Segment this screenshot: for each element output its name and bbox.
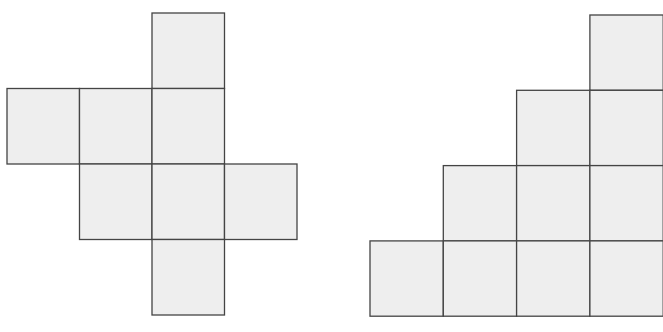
grid-cell xyxy=(152,13,225,89)
grid-cell xyxy=(590,90,663,165)
grid-cell xyxy=(370,241,443,316)
grid-cell xyxy=(590,15,663,90)
grid-cell xyxy=(7,89,80,165)
grid-cell xyxy=(80,89,153,165)
grid-cell xyxy=(590,166,663,241)
grid-cell xyxy=(152,89,225,165)
staircase-figure xyxy=(370,15,663,316)
grid-figures-svg xyxy=(0,0,663,332)
grid-cell xyxy=(152,240,225,316)
grid-cell xyxy=(443,241,516,316)
grid-cell xyxy=(590,241,663,316)
grid-cell xyxy=(225,164,298,240)
diagram-canvas xyxy=(0,0,663,332)
grid-cell xyxy=(443,166,516,241)
grid-cell xyxy=(517,90,590,165)
grid-cell xyxy=(517,166,590,241)
cross-net-figure xyxy=(7,13,297,315)
grid-cell xyxy=(80,164,153,240)
grid-cell xyxy=(517,241,590,316)
grid-cell xyxy=(152,164,225,240)
